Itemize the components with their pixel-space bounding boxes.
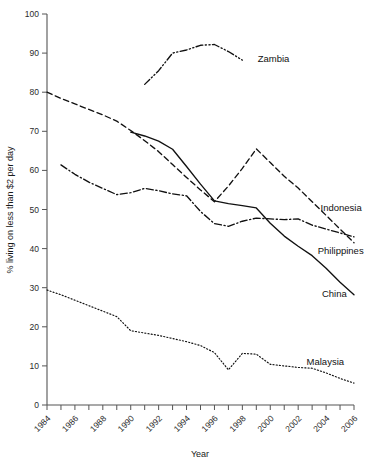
y-tick-label: 90 xyxy=(30,48,40,58)
series-label-china: China xyxy=(322,288,348,299)
y-tick-label: 40 xyxy=(30,244,40,254)
x-tick-label: 2002 xyxy=(283,413,304,434)
y-axis-title: % living on less than $2 per day xyxy=(5,146,15,274)
x-axis-ticks: 1984198619881990199219941996199820002002… xyxy=(32,405,360,434)
chart-container: 0102030405060708090100 19841986198819901… xyxy=(0,0,367,464)
series-line-zambia xyxy=(145,45,243,85)
x-tick-label: 1996 xyxy=(199,413,220,434)
y-tick-label: 10 xyxy=(30,361,40,371)
series-labels: ZambiaIndonesiaPhilippinesChinaMalaysia xyxy=(258,53,364,367)
series-label-malaysia: Malaysia xyxy=(307,356,345,367)
series-layer xyxy=(47,45,354,384)
x-tick-label: 1998 xyxy=(227,413,248,434)
series-label-indonesia: Indonesia xyxy=(321,202,363,213)
y-tick-label: 100 xyxy=(25,9,39,19)
series-label-zambia: Zambia xyxy=(258,53,290,64)
y-tick-label: 30 xyxy=(30,283,40,293)
y-tick-label: 70 xyxy=(30,126,40,136)
x-tick-label: 2000 xyxy=(255,413,276,434)
series-label-philippines: Philippines xyxy=(318,245,364,256)
x-tick-label: 1990 xyxy=(116,413,137,434)
series-line-malaysia xyxy=(47,290,354,383)
x-tick-label: 2006 xyxy=(339,413,360,434)
x-tick-label: 2004 xyxy=(311,413,332,434)
x-tick-label: 1994 xyxy=(172,413,193,434)
axes-group xyxy=(47,14,354,405)
x-tick-label: 1984 xyxy=(32,413,53,434)
y-tick-label: 80 xyxy=(30,87,40,97)
x-tick-label: 1988 xyxy=(88,413,109,434)
line-chart: 0102030405060708090100 19841986198819901… xyxy=(0,0,367,464)
series-line-indonesia xyxy=(47,92,354,243)
x-tick-label: 1986 xyxy=(60,413,81,434)
y-tick-label: 0 xyxy=(34,400,39,410)
y-tick-label: 50 xyxy=(30,205,40,215)
x-axis-title: Year xyxy=(191,449,209,459)
y-tick-label: 60 xyxy=(30,165,40,175)
x-tick-label: 1992 xyxy=(144,413,165,434)
series-line-philippines xyxy=(61,165,354,237)
y-tick-label: 20 xyxy=(30,322,40,332)
y-axis-ticks: 0102030405060708090100 xyxy=(25,9,47,410)
